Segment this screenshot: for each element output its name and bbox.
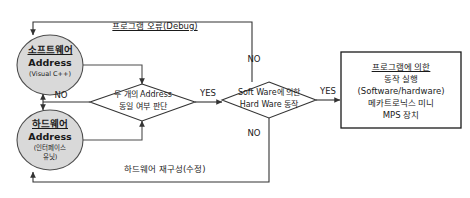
decision-one-line2: 동일 여부 판단: [92, 102, 194, 112]
decision-one-yes-label: YES: [192, 88, 224, 99]
result-box-line1: 프로그램에 의한: [344, 62, 458, 73]
decision-two-line2: Hard Ware 동작: [218, 100, 320, 110]
edge-software-to-decision-one: [83, 65, 142, 84]
software-node-line3: (Visual C++): [13, 70, 87, 78]
hardware-rail-label: 하드웨어 재구성(수정): [100, 164, 230, 175]
hardware-node-line3: (인터페이스: [13, 144, 87, 152]
debug-rail-label: 프로그램 오류(Debug): [95, 21, 215, 32]
decision-one-no-label: NO: [45, 90, 77, 101]
result-box-line2: 동작 실행: [344, 74, 458, 85]
software-node-line2: Address: [16, 57, 84, 69]
software-node-line1: 소프트웨어: [16, 44, 84, 56]
edge-hardware-to-decision-one: [83, 121, 142, 140]
decision-two-no-bottom-label: NO: [238, 128, 270, 139]
decision-one-line1: 두 개의 Address: [92, 90, 194, 100]
decision-two-yes-label: YES: [312, 86, 344, 97]
result-box-line5: MPS 장치: [344, 110, 458, 121]
flowchart-diagram: 소프트웨어 Address (Visual C++) 하드웨어 Address …: [0, 0, 470, 198]
decision-two-no-top-label: NO: [238, 54, 270, 65]
hardware-node-line2: Address: [16, 131, 84, 143]
result-box-line3: (Software/hardware): [341, 86, 461, 97]
decision-two-line1: Soft Ware에 의한: [218, 88, 320, 98]
result-box-line4: 메카트로닉스 미니: [344, 98, 458, 109]
hardware-node-line1: 하드웨어: [16, 118, 84, 130]
hardware-node-line4: 유닛): [13, 153, 87, 161]
